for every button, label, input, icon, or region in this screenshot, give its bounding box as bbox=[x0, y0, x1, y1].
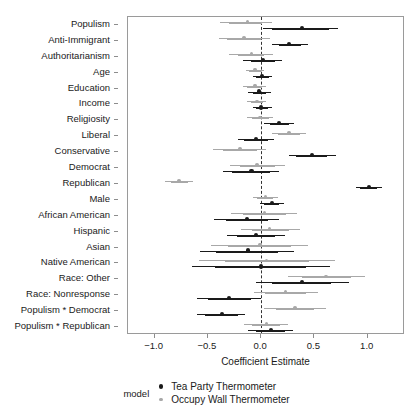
legend-item[interactable]: Tea Party Thermometer bbox=[156, 381, 289, 392]
y-axis-tick bbox=[114, 88, 118, 89]
y-axis-label: Religiosity bbox=[67, 114, 110, 124]
legend: model Tea Party ThermometerOccupy Wall T… bbox=[0, 381, 413, 405]
estimate-point bbox=[253, 84, 257, 88]
y-axis-label: Asian bbox=[86, 242, 110, 252]
estimate-point bbox=[287, 131, 291, 135]
y-axis-tick bbox=[114, 183, 118, 184]
y-axis-tick bbox=[114, 215, 118, 216]
estimate-point bbox=[269, 328, 273, 332]
y-axis-label: Populism bbox=[71, 19, 110, 29]
estimate-point bbox=[265, 322, 269, 326]
y-axis-tick bbox=[114, 72, 118, 73]
estimate-point bbox=[259, 264, 263, 268]
y-axis-tick bbox=[114, 231, 118, 232]
y-axis-tick bbox=[114, 310, 118, 311]
y-axis-tick bbox=[114, 103, 118, 104]
estimate-point bbox=[260, 74, 264, 78]
estimate-point bbox=[255, 163, 259, 167]
estimate-point bbox=[259, 105, 263, 109]
estimate-point bbox=[255, 100, 259, 104]
legend-marker-icon bbox=[156, 395, 166, 405]
y-axis-label: Republican bbox=[62, 178, 110, 188]
y-axis-label: Race: Other bbox=[59, 273, 110, 283]
x-axis-tick-label: −1.0 bbox=[144, 340, 163, 351]
estimate-point bbox=[324, 275, 328, 279]
y-axis-label: Native American bbox=[41, 257, 110, 267]
estimate-point bbox=[258, 116, 262, 120]
legend-title: model bbox=[123, 388, 149, 399]
estimate-point bbox=[220, 312, 224, 316]
x-axis-title: Coefficient Estimate bbox=[127, 356, 404, 367]
y-axis-tick bbox=[114, 56, 118, 57]
y-axis-label: Education bbox=[68, 83, 110, 93]
estimate-point bbox=[250, 52, 254, 56]
estimate-point bbox=[253, 68, 257, 72]
estimate-point bbox=[287, 42, 291, 46]
y-axis-label: Liberal bbox=[81, 130, 110, 140]
x-axis-tick bbox=[260, 334, 261, 338]
y-axis-tick bbox=[114, 40, 118, 41]
legend-marker-icon bbox=[156, 382, 166, 392]
y-axis-tick bbox=[114, 167, 118, 168]
y-axis-label: Conservative bbox=[55, 146, 110, 156]
y-axis-label: Race: Nonresponse bbox=[26, 289, 110, 299]
estimate-point bbox=[300, 26, 304, 30]
estimate-point bbox=[242, 36, 246, 40]
coefficient-plot: PopulismAnti-ImmigrantAuthoritarianismAg… bbox=[0, 0, 413, 417]
legend-label: Occupy Wall Thermometer bbox=[171, 394, 289, 405]
y-axis-tick bbox=[114, 247, 118, 248]
y-axis-label: Populism * Democrat bbox=[21, 305, 110, 315]
estimate-point bbox=[246, 20, 250, 24]
y-axis-label: Male bbox=[89, 194, 110, 204]
y-axis-tick bbox=[114, 135, 118, 136]
y-axis-tick bbox=[114, 278, 118, 279]
x-axis-tick bbox=[154, 334, 155, 338]
y-axis-label: Authoritarianism bbox=[41, 51, 110, 61]
y-axis-tick bbox=[114, 199, 118, 200]
y-axis-label: African American bbox=[38, 210, 110, 220]
x-axis-tick-label: 1.0 bbox=[360, 340, 373, 351]
x-axis-tick bbox=[367, 334, 368, 338]
y-axis-tick bbox=[114, 262, 118, 263]
y-axis-tick bbox=[114, 24, 118, 25]
estimate-point bbox=[249, 169, 253, 173]
y-axis-tick bbox=[114, 151, 118, 152]
estimate-point bbox=[270, 201, 274, 205]
estimate-point bbox=[263, 211, 267, 215]
estimate-point bbox=[367, 185, 371, 189]
estimate-point bbox=[293, 306, 297, 310]
x-axis-tick bbox=[313, 334, 314, 338]
y-axis-label: Anti-Immigrant bbox=[48, 35, 110, 45]
x-axis-tick-label: 0.0 bbox=[254, 340, 267, 351]
estimate-point bbox=[254, 233, 258, 237]
y-axis-label: Age bbox=[93, 67, 110, 77]
legend-label: Tea Party Thermometer bbox=[171, 381, 276, 392]
x-axis-tick bbox=[207, 334, 208, 338]
x-axis-ticks: −1.0−0.50.00.51.0 bbox=[127, 334, 404, 340]
y-axis-labels: PopulismAnti-ImmigrantAuthoritarianismAg… bbox=[0, 16, 118, 334]
estimate-point bbox=[264, 195, 268, 199]
x-axis-tick-label: 0.5 bbox=[307, 340, 320, 351]
x-axis-tick-label: −0.5 bbox=[198, 340, 217, 351]
estimate-point bbox=[238, 147, 242, 151]
legend-item[interactable]: Occupy Wall Thermometer bbox=[156, 394, 289, 405]
y-axis-tick bbox=[114, 326, 118, 327]
y-axis-label: Democrat bbox=[69, 162, 110, 172]
y-axis-label: Hispanic bbox=[74, 226, 110, 236]
y-axis-tick bbox=[114, 294, 118, 295]
zero-reference-line bbox=[261, 17, 262, 333]
estimate-point bbox=[177, 179, 181, 183]
estimate-point bbox=[257, 89, 261, 93]
plot-panel bbox=[127, 16, 404, 334]
y-axis-label: Income bbox=[79, 98, 110, 108]
y-axis-tick bbox=[114, 119, 118, 120]
legend-items: Tea Party ThermometerOccupy Wall Thermom… bbox=[156, 381, 289, 405]
y-axis-label: Populism * Republican bbox=[14, 321, 110, 331]
